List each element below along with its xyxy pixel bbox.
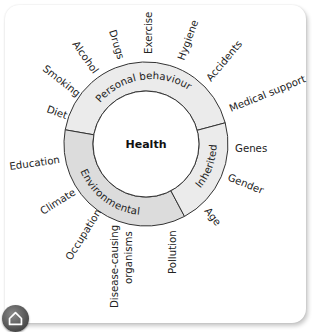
factor-genes: Genes xyxy=(235,143,267,154)
health-factors-diagram: Health Personal behaviour Environmental … xyxy=(0,0,314,332)
factor-organisms: organisms xyxy=(123,231,134,284)
factor-diet: Diet xyxy=(45,104,68,121)
home-icon xyxy=(7,310,24,327)
factor-drugs: Drugs xyxy=(107,28,126,60)
factor-climate: Climate xyxy=(38,187,77,217)
factor-occupation: Occupation xyxy=(63,207,103,262)
factor-hygiene: Hygiene xyxy=(176,18,201,61)
factor-disease-causing: Disease-causing xyxy=(109,225,120,308)
home-button[interactable] xyxy=(2,305,29,332)
factor-gender: Gender xyxy=(226,172,266,197)
factor-pollution: Pollution xyxy=(167,230,178,274)
factor-age: Age xyxy=(202,205,223,227)
factor-exercise: Exercise xyxy=(143,12,154,54)
center-label: Health xyxy=(126,138,167,151)
factor-medical-support: Medical support xyxy=(228,73,308,114)
factor-education: Education xyxy=(9,154,61,172)
factor-smoking: Smoking xyxy=(41,63,83,99)
factor-accidents: Accidents xyxy=(204,38,244,83)
factor-alcohol: Alcohol xyxy=(70,39,100,76)
